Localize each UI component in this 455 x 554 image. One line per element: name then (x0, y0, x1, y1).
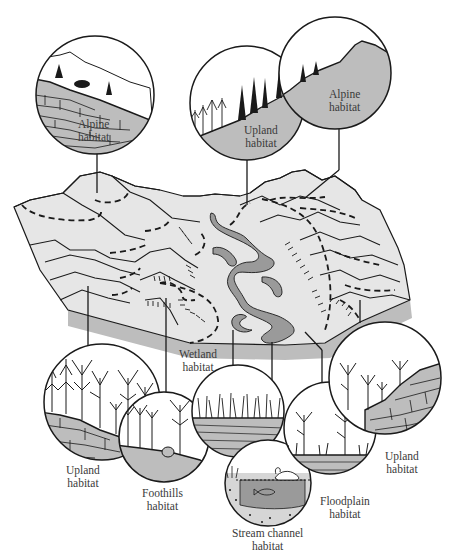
label-line1: Foothills (142, 487, 183, 500)
label-upland-bottom-left: Upland habitat (66, 464, 100, 490)
label-wetland: Wetland habitat (179, 348, 217, 374)
label-line1: Floodplain (320, 495, 370, 508)
valley-terrain (14, 170, 412, 360)
label-line2: habitat (385, 463, 419, 476)
label-line2: habitat (329, 101, 360, 114)
label-line2: habitat (320, 508, 370, 521)
label-alpine-left: Alpine habitat (78, 118, 109, 144)
label-line2: habitat (66, 477, 100, 490)
label-upland-top: Upland habitat (244, 124, 278, 150)
label-line1: Stream channel (232, 527, 303, 540)
label-line1: Upland (66, 464, 100, 477)
label-line2: habitat (179, 361, 217, 374)
label-line2: habitat (244, 137, 278, 150)
label-line1: Upland (385, 450, 419, 463)
label-line2: habitat (232, 540, 303, 553)
label-line2: habitat (78, 131, 109, 144)
label-alpine-right: Alpine habitat (329, 88, 360, 114)
label-stream-channel: Stream channel habitat (232, 527, 303, 553)
label-foothills: Foothills habitat (142, 487, 183, 513)
label-upland-bottom-right: Upland habitat (385, 450, 419, 476)
label-line1: Upland (244, 124, 278, 137)
label-line1: Wetland (179, 348, 217, 361)
label-floodplain: Floodplain habitat (320, 495, 370, 521)
label-line1: Alpine (78, 118, 109, 131)
label-line1: Alpine (329, 88, 360, 101)
label-line2: habitat (142, 500, 183, 513)
